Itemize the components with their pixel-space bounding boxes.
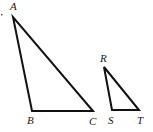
vertex-label-s: S — [108, 114, 114, 126]
triangle-rst: R S T — [99, 52, 144, 126]
vertex-label-b: B — [27, 114, 34, 126]
vertex-label-a: A — [9, 0, 17, 12]
vertex-label-c: C — [89, 115, 97, 127]
vertex-label-r: R — [99, 52, 107, 64]
stray-mark — [1, 14, 3, 16]
similar-triangles-diagram: A B C R S T — [0, 0, 153, 132]
triangle-rst-outline — [104, 67, 139, 110]
vertex-label-t: T — [137, 114, 144, 126]
triangle-abc: A B C — [9, 0, 97, 127]
triangle-abc-outline — [13, 17, 93, 111]
